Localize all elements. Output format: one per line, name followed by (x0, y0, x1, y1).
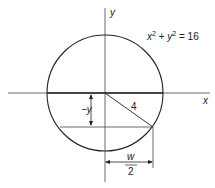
x-axis-label: x (202, 95, 209, 106)
radius-label: 4 (131, 101, 137, 112)
eq-equals: = 16 (176, 31, 199, 42)
circle-diagram: y x x2 + y2 = 16 4 −y w 2 (0, 0, 215, 188)
diagram-canvas: y x x2 + y2 = 16 4 −y w 2 (0, 0, 215, 188)
equation-label: x2 + y2 = 16 (146, 30, 199, 42)
y-axis-label: y (109, 7, 116, 18)
width-denominator: 2 (128, 166, 134, 177)
arrow-left-icon (105, 160, 110, 164)
height-label: −y (81, 104, 93, 115)
arrow-right-icon (148, 160, 153, 164)
eq-plus: + (156, 31, 167, 42)
arrow-up-icon (89, 94, 93, 99)
radius-line (105, 93, 153, 127)
arrow-down-icon (89, 121, 93, 126)
width-numerator: w (127, 151, 135, 162)
